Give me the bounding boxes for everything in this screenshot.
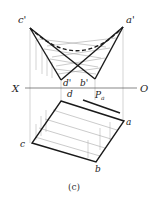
label-b: b [95, 164, 101, 174]
label-trace-pa: Pa [94, 90, 105, 101]
figure-caption: (c) [68, 182, 80, 192]
label-axis-o: O [140, 83, 148, 94]
label-b-prime: b' [80, 78, 88, 88]
label-d-prime: d' [63, 78, 71, 88]
hyperbolic-paraboloid-diagram: c' a' d' b' X O d a b c Pa (c) [0, 0, 152, 197]
label-a-prime: a' [126, 14, 135, 25]
label-c-prime: c' [18, 14, 26, 25]
label-d: d [67, 89, 73, 99]
trace-pa-line [83, 100, 120, 113]
label-a: a [126, 117, 131, 127]
label-axis-x: X [11, 83, 20, 94]
label-c: c [20, 139, 25, 149]
